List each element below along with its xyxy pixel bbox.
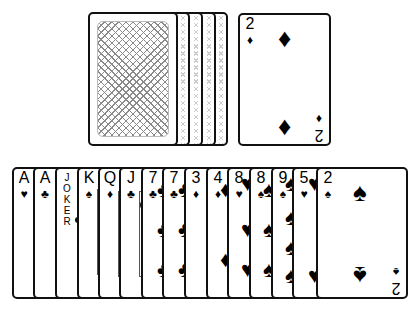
spade-icon: ♠ [82, 188, 96, 200]
card-index-bottom: 2 ♠ [389, 266, 403, 296]
spade-icon: ♠ [353, 179, 367, 205]
card-back-pattern [181, 14, 185, 144]
card-back-pattern [207, 14, 211, 144]
card-back-pattern [219, 14, 223, 144]
card-index-top: A ♣ [38, 170, 52, 200]
discard-pile-card[interactable]: 2 ♦ ♦ ♦ 2 ♦ [238, 13, 331, 146]
card-rank: J [124, 170, 138, 186]
card-rank: 2 [312, 127, 326, 143]
card-index-top: K ♠ [82, 170, 96, 200]
joker-letter: J [65, 172, 70, 183]
card-rank: Q [103, 170, 117, 186]
card-index-bottom: 2 ♦ [312, 113, 326, 143]
card-rank: A [38, 170, 52, 186]
heart-icon: ♥ [17, 188, 31, 200]
card-index-top: Q ♦ [103, 170, 117, 200]
card-index-top: 3 ♦ [189, 170, 203, 200]
card-index-top: 2 ♦ [243, 16, 257, 46]
card-back-pattern [194, 14, 198, 144]
card-rank: 2 [243, 16, 257, 32]
diamond-icon: ♦ [312, 113, 326, 125]
hand-card[interactable]: 2 ♠ ♠ ♠ 2 ♠ [316, 167, 408, 299]
diamond-icon: ♦ [103, 188, 117, 200]
joker-label: J O K E R [62, 172, 72, 227]
spade-icon: ♠ [389, 266, 403, 278]
spade-icon: ♠ [321, 188, 335, 200]
joker-letter: O [63, 183, 71, 194]
card-index-top: 2 ♠ [321, 170, 335, 200]
spade-icon: ♠ [353, 263, 367, 289]
club-icon: ♣ [124, 188, 138, 200]
card-rank: 2 [389, 280, 403, 296]
card-index-top: J ♣ [124, 170, 138, 200]
diamond-icon: ♦ [243, 34, 257, 46]
card-rank: K [82, 170, 96, 186]
joker-letter: K [64, 194, 71, 205]
diamond-icon: ♦ [189, 188, 203, 200]
deck-top-card[interactable] [88, 12, 178, 146]
diamond-icon: ♦ [278, 113, 291, 139]
club-icon: ♣ [38, 188, 52, 200]
card-rank: 2 [321, 170, 335, 186]
joker-letter: E [64, 205, 71, 216]
joker-letter: R [63, 216, 70, 227]
card-index-top: A ♥ [17, 170, 31, 200]
card-back-pattern [97, 21, 169, 137]
diamond-icon: ♦ [278, 25, 291, 51]
card-rank: A [17, 170, 31, 186]
card-rank: 3 [189, 170, 203, 186]
